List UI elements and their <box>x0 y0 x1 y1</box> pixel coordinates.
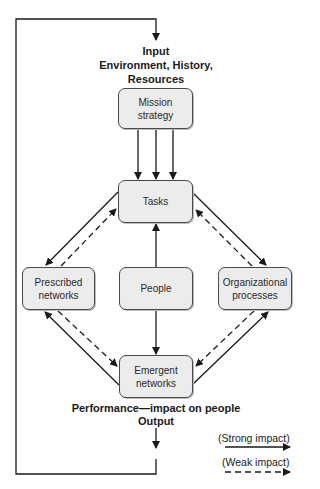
input-label: Input Environment, History, Resources <box>80 44 232 86</box>
node-prescribed-networks-label: Prescribed networks <box>35 276 83 302</box>
emergent-to-prescribed-arrow <box>45 312 119 385</box>
prescribed-to-emergent-dashed-arrow <box>58 311 117 366</box>
tasks-to-prescribed-arrow <box>46 192 118 265</box>
node-emergent-networks-label: Emergent networks <box>134 364 177 390</box>
emergent-to-organizational-arrow <box>193 312 268 384</box>
node-tasks: Tasks <box>118 180 193 223</box>
organizational-to-emergent-dashed-arrow <box>196 311 254 366</box>
organizational-to-tasks-dashed-arrow <box>196 210 252 266</box>
node-tasks-label: Tasks <box>143 195 169 208</box>
node-organizational-processes-label: Organizational processes <box>223 276 287 302</box>
legend-weak-label: (Weak impact) <box>222 456 290 468</box>
node-mission-strategy-label: Mission strategy <box>138 96 174 122</box>
node-mission-strategy: Mission strategy <box>118 88 193 129</box>
node-people-label: People <box>140 282 171 295</box>
node-emergent-networks: Emergent networks <box>119 355 193 398</box>
node-people: People <box>119 267 193 310</box>
output-label-output: Output <box>80 414 232 428</box>
tasks-to-organizational-arrow <box>193 193 266 265</box>
output-label-performance: Performance—impact on people <box>60 401 252 415</box>
node-prescribed-networks: Prescribed networks <box>22 267 95 310</box>
node-organizational-processes: Organizational processes <box>218 267 292 310</box>
prescribed-to-tasks-dashed-arrow <box>61 209 116 266</box>
legend-strong-label: (Strong impact) <box>218 432 290 444</box>
